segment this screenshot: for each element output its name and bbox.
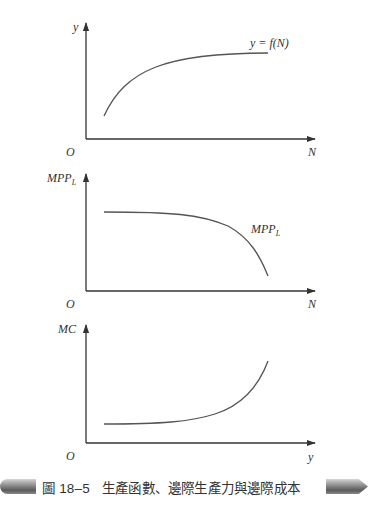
y-axis-label: MPPL bbox=[46, 171, 77, 187]
curve-label: MPPL bbox=[250, 222, 281, 238]
caption-bar-left-decoration bbox=[0, 479, 36, 494]
origin-label: O bbox=[66, 449, 75, 463]
production-curve bbox=[104, 53, 268, 116]
figure-caption: 圖 18–5生產函數、邊際生產力與邊際成本 bbox=[0, 476, 388, 498]
mpp-curve bbox=[104, 212, 268, 276]
chart-production-function: y O N y = f(N) bbox=[66, 20, 317, 159]
chart-marginal-product: MPPL O N MPPL bbox=[46, 171, 317, 311]
mc-curve bbox=[104, 361, 268, 424]
figure-title: 生產函數、邊際生產力與邊際成本 bbox=[102, 480, 300, 496]
x-axis-label: N bbox=[307, 145, 317, 159]
x-axis-label: y bbox=[307, 450, 314, 464]
figure-number: 圖 18–5 bbox=[42, 481, 90, 496]
chart-marginal-cost: MC O y bbox=[57, 322, 315, 464]
origin-label: O bbox=[66, 145, 75, 159]
y-axis-label: MC bbox=[57, 322, 77, 336]
caption-bar-right-arrow-decoration bbox=[326, 479, 368, 494]
x-axis-label: N bbox=[307, 297, 317, 311]
y-axis-label: y bbox=[72, 20, 79, 34]
figure-canvas: y O N y = f(N) MPPL O N MPPL MC O y bbox=[0, 0, 388, 511]
caption-text: 圖 18–5生產函數、邊際生產力與邊際成本 bbox=[42, 477, 300, 497]
curve-label: y = f(N) bbox=[249, 36, 289, 50]
origin-label: O bbox=[66, 297, 75, 311]
